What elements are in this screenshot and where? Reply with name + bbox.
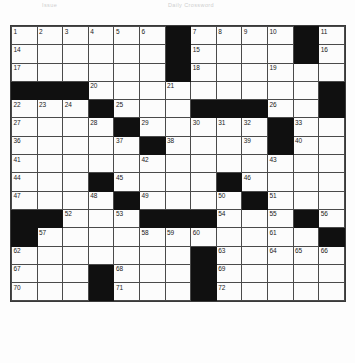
crossword-cell-numbered[interactable]: 29 [139,118,165,136]
crossword-cell-numbered[interactable]: 54 [216,209,242,227]
crossword-cell[interactable] [37,136,63,154]
crossword-cell-numbered[interactable]: 37 [114,136,140,154]
crossword-cell-numbered[interactable]: 64 [267,246,293,264]
crossword-cell[interactable] [139,81,165,99]
crossword-cell[interactable] [63,228,89,246]
crossword-grid[interactable]: 1234567891011141516171819202122232425262… [11,26,345,301]
crossword-cell-numbered[interactable]: 6 [139,27,165,45]
crossword-cell[interactable] [63,191,89,209]
crossword-cell-numbered[interactable]: 63 [216,246,242,264]
crossword-cell-numbered[interactable]: 15 [191,45,217,63]
crossword-cell[interactable] [88,63,114,81]
crossword-cell[interactable] [63,264,89,282]
crossword-cell[interactable] [267,45,293,63]
crossword-cell[interactable] [191,173,217,191]
crossword-cell[interactable] [139,246,165,264]
crossword-cell[interactable] [293,100,319,118]
crossword-cell-numbered[interactable]: 26 [267,100,293,118]
crossword-cell-numbered[interactable]: 30 [191,118,217,136]
crossword-cell-numbered[interactable]: 16 [319,45,345,63]
crossword-cell-numbered[interactable]: 56 [319,209,345,227]
crossword-cell[interactable] [63,283,89,301]
crossword-cell-numbered[interactable]: 10 [267,27,293,45]
crossword-cell[interactable] [88,209,114,227]
crossword-cell[interactable] [88,246,114,264]
crossword-cell-numbered[interactable]: 19 [267,63,293,81]
crossword-cell[interactable] [242,246,268,264]
crossword-cell[interactable] [191,191,217,209]
crossword-cell[interactable] [242,63,268,81]
crossword-cell[interactable] [242,264,268,282]
crossword-cell[interactable] [319,264,345,282]
crossword-cell-numbered[interactable]: 11 [319,27,345,45]
crossword-cell[interactable] [63,118,89,136]
crossword-cell[interactable] [114,246,140,264]
crossword-cell[interactable] [319,283,345,301]
crossword-cell-numbered[interactable]: 72 [216,283,242,301]
crossword-cell[interactable] [88,136,114,154]
crossword-cell[interactable] [319,173,345,191]
crossword-cell[interactable] [293,81,319,99]
crossword-cell[interactable] [216,81,242,99]
crossword-cell[interactable] [88,155,114,173]
crossword-cell-numbered[interactable]: 38 [165,136,191,154]
crossword-cell[interactable] [293,283,319,301]
crossword-cell[interactable] [114,155,140,173]
crossword-cell-numbered[interactable]: 65 [293,246,319,264]
crossword-cell-numbered[interactable]: 39 [242,136,268,154]
crossword-cell[interactable] [191,155,217,173]
crossword-cell-numbered[interactable]: 18 [191,63,217,81]
crossword-cell[interactable] [139,283,165,301]
crossword-cell-numbered[interactable]: 23 [37,100,63,118]
crossword-cell-numbered[interactable]: 21 [165,81,191,99]
crossword-cell[interactable] [191,81,217,99]
crossword-cell-numbered[interactable]: 71 [114,283,140,301]
crossword-cell-numbered[interactable]: 33 [293,118,319,136]
crossword-cell-numbered[interactable]: 36 [12,136,38,154]
crossword-cell[interactable] [267,173,293,191]
crossword-cell[interactable] [216,136,242,154]
crossword-cell[interactable] [191,136,217,154]
crossword-cell[interactable] [139,100,165,118]
crossword-cell-numbered[interactable]: 17 [12,63,38,81]
crossword-cell[interactable] [139,173,165,191]
crossword-cell[interactable] [37,191,63,209]
crossword-cell-numbered[interactable]: 57 [37,228,63,246]
crossword-cell[interactable] [63,173,89,191]
crossword-cell-numbered[interactable]: 28 [88,118,114,136]
crossword-cell[interactable] [293,228,319,246]
crossword-cell[interactable] [216,45,242,63]
crossword-cell[interactable] [37,173,63,191]
crossword-cell-numbered[interactable]: 46 [242,173,268,191]
crossword-cell[interactable] [165,118,191,136]
crossword-cell[interactable] [319,136,345,154]
crossword-cell[interactable] [319,191,345,209]
crossword-cell[interactable] [242,45,268,63]
crossword-cell-numbered[interactable]: 42 [139,155,165,173]
crossword-cell[interactable] [165,191,191,209]
crossword-cell[interactable] [165,155,191,173]
crossword-cell-numbered[interactable]: 5 [114,27,140,45]
crossword-cell-numbered[interactable]: 7 [191,27,217,45]
crossword-cell-numbered[interactable]: 43 [267,155,293,173]
crossword-cell-numbered[interactable]: 9 [242,27,268,45]
crossword-cell[interactable] [63,136,89,154]
crossword-cell[interactable] [139,45,165,63]
crossword-cell-numbered[interactable]: 68 [114,264,140,282]
crossword-cell[interactable] [114,228,140,246]
crossword-cell[interactable] [63,155,89,173]
crossword-cell[interactable] [242,155,268,173]
crossword-cell-numbered[interactable]: 67 [12,264,38,282]
crossword-cell[interactable] [139,264,165,282]
crossword-cell-numbered[interactable]: 69 [216,264,242,282]
crossword-cell[interactable] [267,81,293,99]
crossword-cell[interactable] [293,155,319,173]
crossword-cell[interactable] [242,228,268,246]
crossword-cell[interactable] [63,63,89,81]
crossword-cell-numbered[interactable]: 70 [12,283,38,301]
crossword-cell[interactable] [293,264,319,282]
crossword-cell-numbered[interactable]: 32 [242,118,268,136]
crossword-cell-numbered[interactable]: 66 [319,246,345,264]
crossword-cell-numbered[interactable]: 44 [12,173,38,191]
crossword-cell-numbered[interactable]: 45 [114,173,140,191]
